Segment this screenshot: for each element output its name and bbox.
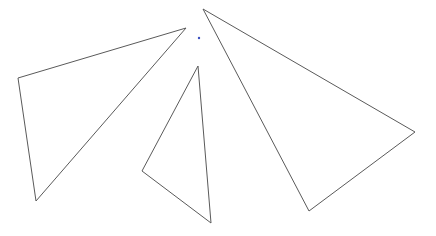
triangle-right <box>203 9 415 211</box>
triangle-middle <box>142 66 211 223</box>
drawing-canvas <box>0 0 436 236</box>
triangle-left <box>18 28 186 201</box>
blue-dot-marker <box>198 37 200 39</box>
